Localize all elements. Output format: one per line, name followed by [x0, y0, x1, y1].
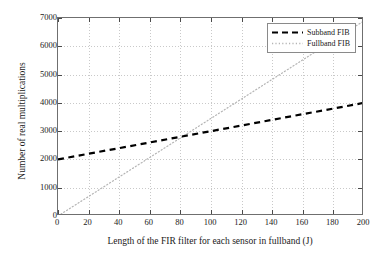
- legend-label-subband-fib: Subband FIB: [307, 28, 349, 37]
- legend-item-fullband-fib: Fullband FIB: [272, 38, 350, 49]
- x-axis-title: Length of the FIR filter for each sensor…: [57, 236, 363, 246]
- x-tick-label: 40: [114, 217, 123, 227]
- x-tick-label: 60: [145, 217, 154, 227]
- x-tick-label: 100: [204, 217, 217, 227]
- y-axis-title: Number of real multiplications: [17, 36, 27, 206]
- legend-swatch-dashed: [272, 28, 303, 37]
- x-tick-label: 200: [357, 217, 370, 227]
- y-tick-label: 0: [17, 210, 57, 220]
- legend-item-subband-fib: Subband FIB: [272, 27, 350, 38]
- x-tick-label: 140: [265, 217, 278, 227]
- chart-legend: Subband FIB Fullband FIB: [267, 23, 356, 53]
- series-line-fullband-fib: [58, 103, 363, 160]
- plot-area: Subband FIB Fullband FIB: [57, 17, 363, 215]
- chart-figure: Subband FIB Fullband FIB 020406080100120…: [0, 0, 387, 259]
- x-tick-label: 160: [295, 217, 308, 227]
- x-tick-label: 120: [234, 217, 247, 227]
- x-tick-label: 180: [326, 217, 339, 227]
- x-tick-label: 20: [83, 217, 92, 227]
- y-tick-label: 7000: [17, 12, 57, 22]
- legend-swatch-dotted: [272, 39, 303, 48]
- legend-label-fullband-fib: Fullband FIB: [307, 39, 350, 48]
- x-tick-label: 80: [175, 217, 184, 227]
